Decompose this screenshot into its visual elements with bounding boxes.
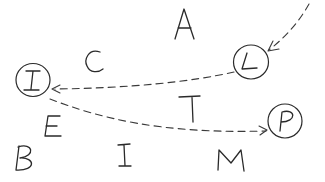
node-I <box>16 64 50 97</box>
node-L <box>234 45 269 79</box>
node-P <box>268 104 302 138</box>
arrow-I-to-P <box>50 99 267 135</box>
letter-I-loose <box>118 144 131 166</box>
letter-T <box>179 96 200 122</box>
letter-B <box>16 146 32 170</box>
letter-A <box>175 9 194 39</box>
arrow-L-to-I <box>52 72 234 93</box>
diagram-canvas <box>0 0 325 182</box>
letter-C <box>86 51 103 72</box>
letter-M <box>218 150 244 171</box>
diagram-svg <box>0 0 325 182</box>
arrow-into-L <box>268 4 309 51</box>
letter-E <box>45 116 61 136</box>
